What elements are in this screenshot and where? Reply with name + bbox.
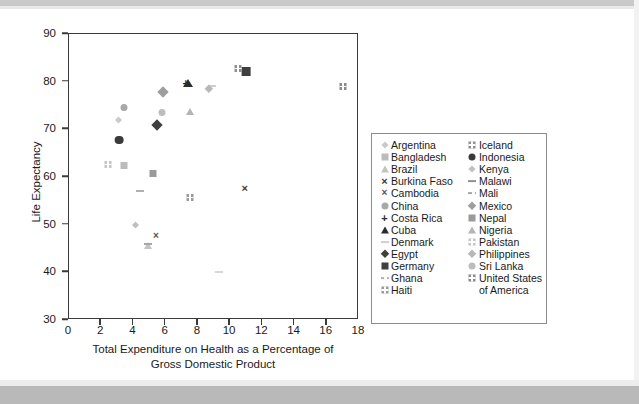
legend-item: Argentina [378,139,458,151]
data-point [208,81,214,99]
marker-diamond-small [115,116,122,123]
legend-label: China [391,200,418,212]
legend-item: Egypt [378,248,458,260]
legend-item: Brazil [378,163,458,175]
legend-marker [466,248,479,260]
marker-x-thin: × [381,176,387,187]
data-point: × [241,178,247,196]
x-tick-mark [196,319,198,325]
data-point [136,178,144,196]
legend-item: Haiti [378,284,458,296]
marker-square-grid [104,161,111,168]
data-point [183,73,193,91]
data-point [120,97,127,115]
data-point [120,155,127,173]
marker-square [149,170,156,177]
marker-circle [159,109,166,116]
legend-label: Philippines [479,248,530,260]
data-point [118,111,123,129]
data-point [115,130,124,148]
legend-marker [466,272,479,284]
marker-diamond [468,201,477,210]
marker-square-grid [235,65,242,72]
x-tick-label: 16 [314,324,338,336]
x-tick-mark [132,319,134,325]
x-axis-label-line1: Total Expenditure on Health as a Percent… [92,343,333,355]
marker-square [381,262,388,269]
legend-label: Pakistan [479,236,519,248]
legend-label-continuation: of America [466,284,542,296]
marker-triangle [183,79,193,87]
marker-square-grid [186,194,193,201]
legend-marker [378,224,391,236]
x-tick-mark [325,319,327,325]
marker-triangle [144,242,152,249]
legend-marker [466,260,479,272]
legend-marker [466,200,479,212]
legend-label: Nepal [479,212,506,224]
legend-item: Nepal [466,212,542,224]
x-axis-label-line2: Gross Domestic Product [151,358,276,370]
legend-marker [466,187,479,199]
legend-label: Mexico [479,200,512,212]
y-tick-label: 70 [30,122,56,134]
data-point [144,231,152,249]
legend-marker [378,236,391,248]
data-point [215,259,223,277]
marker-square [381,154,388,161]
x-tick-mark [228,319,230,325]
marker-triangle [381,226,389,233]
legend-item: Kenya [466,163,542,175]
data-point: + [183,73,189,91]
x-tick-label: 4 [120,324,144,336]
plot-frame: ××+ [68,33,358,319]
x-tick-mark [99,319,101,325]
legend-label: Indonesia [479,151,525,163]
marker-square [242,67,251,76]
marker-dash [468,180,476,182]
data-point [208,73,216,91]
legend-item: Germany [378,260,458,272]
legend-marker [466,224,479,236]
marker-triangle [186,108,194,115]
legend-item: Nigeria [466,224,542,236]
legend-label: Mali [479,187,498,199]
marker-diamond [380,249,389,258]
x-tick-label: 14 [282,324,306,336]
scatter-chart: Life Expectancy 30405060708090 024681012… [0,9,639,380]
data-point [235,58,242,76]
legend-label: Kenya [479,163,509,175]
data-point [157,119,165,137]
data-point [242,62,251,80]
marker-triangle [381,166,389,173]
legend: ArgentinaBangladeshBrazil×Burkina Faso×C… [371,133,547,324]
x-tick-label: 6 [153,324,177,336]
legend-marker [378,200,391,212]
legend-item: Denmark [378,236,458,248]
marker-plus: + [183,78,189,89]
legend-item: Philippines [466,248,542,260]
marker-diamond-small [132,221,139,228]
y-tick-label: 60 [30,170,56,182]
legend-item: ×Burkina Faso [378,175,458,187]
legend-label: Bangladesh [391,151,446,163]
legend-item: Malawi [466,175,542,187]
legend-item: Sri Lanka [466,260,542,272]
legend-label: Costa Rica [391,212,442,224]
legend-label: Cuba [391,224,416,236]
legend-marker [378,260,391,272]
marker-x-bold: × [382,188,388,198]
x-tick-label: 12 [249,324,273,336]
legend-marker [378,139,391,151]
x-tick-label: 18 [346,324,370,336]
legend-label: Sri Lanka [479,260,523,272]
x-axis-label: Total Expenditure on Health as a Percent… [68,342,358,372]
data-point [149,163,156,181]
data-point [136,216,141,234]
x-tick-label: 10 [217,324,241,336]
legend-label: Germany [391,260,434,272]
legend-item: Cuba [378,224,458,236]
data-point [186,187,193,205]
marker-diamond [204,84,213,93]
legend-column-2: IcelandIndonesiaKenyaMalawiMaliMexicoNep… [466,139,542,296]
